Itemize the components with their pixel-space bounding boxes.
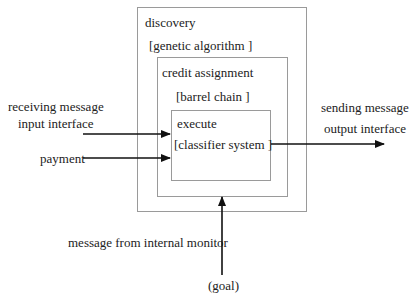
arrows-layer — [0, 0, 407, 296]
